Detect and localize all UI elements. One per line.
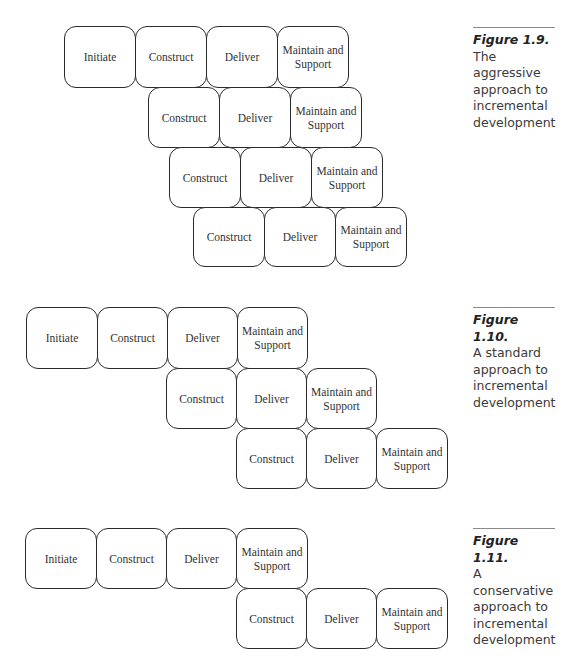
phase-box-maintain-support: Maintain and Support <box>306 368 377 429</box>
phase-label: Deliver <box>238 111 272 125</box>
phase-label: Maintain and Support <box>296 104 357 132</box>
phase-label: Initiate <box>45 552 78 566</box>
phase-box-initiate: Initiate <box>64 26 136 88</box>
figure-1-11-caption: Figure 1.11. A conservative approach to … <box>473 528 557 649</box>
phase-box-construct: Construct <box>97 307 168 369</box>
phase-label: Maintain and Support <box>242 545 303 573</box>
phase-box-maintain-support: Maintain and Support <box>290 87 362 148</box>
caption-rule <box>473 528 555 529</box>
phase-label: Deliver <box>324 452 358 466</box>
phase-label: Deliver <box>259 171 293 185</box>
phase-label: Construct <box>183 171 228 185</box>
phase-box-deliver: Deliver <box>166 528 237 589</box>
phase-box-deliver: Deliver <box>306 428 377 489</box>
phase-label: Maintain and Support <box>382 445 443 473</box>
phase-label: Maintain and Support <box>242 324 303 352</box>
phase-box-deliver: Deliver <box>219 87 291 148</box>
phase-box-maintain-support: Maintain and Support <box>376 588 448 649</box>
phase-label: Deliver <box>185 331 219 345</box>
caption-rule <box>473 27 555 28</box>
phase-box-construct: Construct <box>193 207 265 267</box>
phase-label: Construct <box>110 331 155 345</box>
phase-label: Construct <box>109 552 154 566</box>
phase-label: Deliver <box>184 552 218 566</box>
phase-label: Deliver <box>283 230 317 244</box>
phase-box-initiate: Initiate <box>25 528 97 589</box>
phase-box-construct: Construct <box>135 26 207 88</box>
phase-label: Maintain and Support <box>311 385 372 413</box>
phase-box-construct: Construct <box>166 368 237 429</box>
phase-label: Deliver <box>324 612 358 626</box>
phase-label: Initiate <box>84 50 117 64</box>
figure-description: The aggressive approach to incremental d… <box>473 49 557 132</box>
phase-label: Construct <box>249 452 294 466</box>
phase-label: Deliver <box>254 392 288 406</box>
phase-label: Maintain and Support <box>283 43 344 71</box>
phase-box-deliver: Deliver <box>206 26 278 88</box>
caption-rule <box>473 307 555 308</box>
figure-description: A conservative approach to incremental d… <box>473 566 557 649</box>
phase-box-maintain-support: Maintain and Support <box>311 147 383 208</box>
phase-label: Maintain and Support <box>317 164 378 192</box>
phase-box-maintain-support: Maintain and Support <box>277 26 349 88</box>
phase-label: Construct <box>162 111 207 125</box>
phase-box-deliver: Deliver <box>167 307 238 369</box>
phase-box-maintain-support: Maintain and Support <box>236 528 308 589</box>
phase-label: Deliver <box>225 50 259 64</box>
phase-label: Maintain and Support <box>382 605 443 633</box>
phase-label: Construct <box>249 612 294 626</box>
phase-box-construct: Construct <box>236 428 307 489</box>
phase-box-maintain-support: Maintain and Support <box>335 207 407 267</box>
phase-box-maintain-support: Maintain and Support <box>237 307 308 369</box>
phase-box-deliver: Deliver <box>264 207 336 267</box>
phase-box-initiate: Initiate <box>26 307 98 369</box>
figure-description: A standard approach to incremental devel… <box>473 345 557 411</box>
phase-box-deliver: Deliver <box>236 368 307 429</box>
figure-number: Figure 1.11. <box>473 533 557 566</box>
phase-label: Construct <box>149 50 194 64</box>
phase-label: Construct <box>179 392 224 406</box>
phase-label: Initiate <box>46 331 79 345</box>
phase-box-construct: Construct <box>236 588 307 649</box>
phase-box-deliver: Deliver <box>306 588 377 649</box>
phase-box-maintain-support: Maintain and Support <box>376 428 448 489</box>
phase-box-construct: Construct <box>169 147 241 208</box>
phase-label: Maintain and Support <box>341 223 402 251</box>
figure-1-10-caption: Figure 1.10. A standard approach to incr… <box>473 307 557 411</box>
phase-label: Construct <box>207 230 252 244</box>
figure-1-9-caption: Figure 1.9. The aggressive approach to i… <box>473 27 557 131</box>
figure-number: Figure 1.9. <box>473 32 557 49</box>
phase-box-construct: Construct <box>148 87 220 148</box>
phase-box-construct: Construct <box>96 528 167 589</box>
phase-box-deliver: Deliver <box>240 147 312 208</box>
figure-number: Figure 1.10. <box>473 312 557 345</box>
